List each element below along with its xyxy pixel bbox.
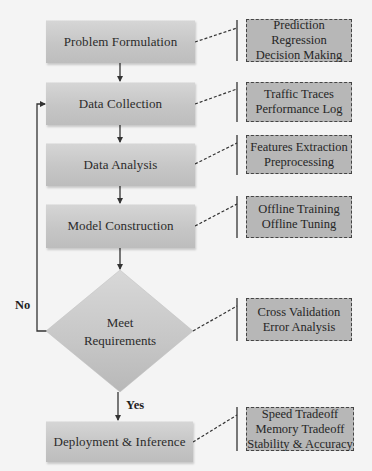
stage-deployment-inference: Deployment & Inference [46, 421, 193, 462]
note-data-collection: Traffic Traces Performance Log [246, 82, 352, 122]
decision-line-2: Requirements [60, 332, 180, 350]
yes-label: Yes [126, 398, 144, 413]
stage-label: Data Collection [79, 96, 162, 112]
note-line: Traffic Traces [264, 87, 334, 102]
note-decision: Cross Validation Error Analysis [246, 298, 352, 341]
note-line: Error Analysis [263, 320, 336, 335]
note-deployment-inference: Speed Tradeoff Memory Tradeoff Stability… [246, 407, 354, 451]
note-line: Cross Validation [258, 305, 341, 320]
stage-problem-formulation: Problem Formulation [46, 20, 195, 63]
note-line: Regression [271, 33, 327, 48]
note-line: Preprocessing [264, 155, 334, 170]
stage-label: Data Analysis [84, 157, 158, 173]
decision-line-1: Meet [60, 314, 180, 332]
decision-label: Meet Requirements [60, 314, 180, 350]
stage-label: Model Construction [67, 218, 173, 234]
note-line: Offline Training [258, 202, 339, 217]
stage-data-collection: Data Collection [46, 82, 195, 125]
note-line: Features Extraction [250, 140, 348, 155]
note-line: Prediction [273, 18, 324, 33]
note-line: Stability & Accuracy [247, 437, 353, 452]
dashed-connectors [193, 28, 237, 442]
note-problem-formulation: Prediction Regression Decision Making [246, 19, 352, 62]
stage-label: Deployment & Inference [53, 434, 185, 450]
stage-model-construction: Model Construction [46, 204, 195, 248]
note-model-construction: Offline Training Offline Tuning [246, 196, 352, 238]
note-line: Speed Tradeoff [262, 407, 339, 422]
note-line: Offline Tuning [262, 217, 336, 232]
note-line: Memory Tradeoff [255, 422, 344, 437]
no-label: No [15, 298, 30, 313]
note-line: Decision Making [256, 48, 342, 63]
stage-label: Problem Formulation [64, 34, 177, 50]
note-data-analysis: Features Extraction Preprocessing [246, 135, 352, 174]
note-line: Performance Log [255, 102, 342, 117]
stage-data-analysis: Data Analysis [46, 143, 195, 186]
